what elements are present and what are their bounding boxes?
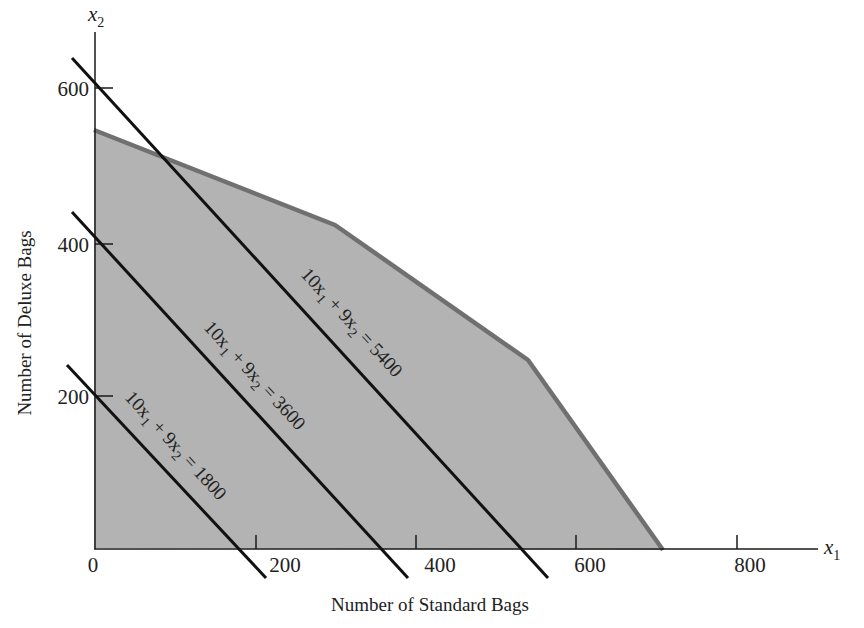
y-axis-variable-label: x2 xyxy=(87,2,104,30)
x-axis-title: Number of Standard Bags xyxy=(331,594,529,615)
x-axis-variable-label: x1 xyxy=(823,535,840,563)
x-tick-label-0: 0 xyxy=(88,553,99,577)
x-tick-label-600: 600 xyxy=(574,553,606,577)
y-tick-label-600: 600 xyxy=(58,77,90,101)
x-tick-label-800: 800 xyxy=(734,553,766,577)
y-tick-label-400: 400 xyxy=(58,233,90,257)
x-tick-label-200: 200 xyxy=(269,553,301,577)
y-tick-label-200: 200 xyxy=(58,385,90,409)
chart-canvas: 600 400 200 0 200 400 600 800 x2 x1 Numb… xyxy=(0,0,864,628)
y-axis-title: Number of Deluxe Bags xyxy=(14,230,35,415)
x-tick-label-400: 400 xyxy=(424,553,456,577)
